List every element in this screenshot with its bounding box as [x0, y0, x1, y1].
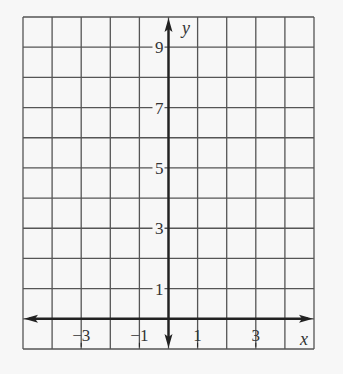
- y-tick-label: 1: [155, 280, 164, 299]
- axes: [24, 18, 313, 348]
- x-tick-label: 1: [193, 326, 202, 345]
- x-axis-label: x: [299, 329, 308, 349]
- tick-labels: −3−11313579: [72, 38, 260, 347]
- coordinate-grid: −3−11313579 x y: [0, 0, 343, 374]
- x-tick-label: −3: [72, 326, 90, 345]
- x-tick-label: −1: [130, 326, 148, 345]
- y-tick-label: 3: [155, 219, 164, 238]
- x-tick-label: 3: [252, 326, 261, 345]
- y-axis-label: y: [180, 18, 190, 38]
- y-tick-label: 9: [155, 38, 164, 57]
- y-tick-label: 7: [155, 99, 164, 118]
- y-tick-label: 5: [155, 159, 164, 178]
